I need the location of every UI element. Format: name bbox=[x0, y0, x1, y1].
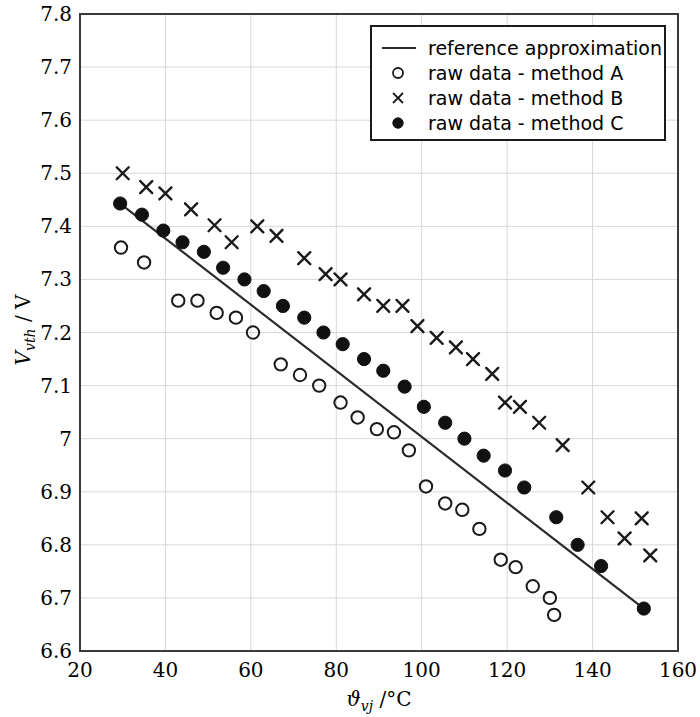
x-axis-title: ϑvj /°C bbox=[347, 687, 412, 714]
scatter-plot: 6.66.76.86.977.17.27.37.47.57.67.77.8 20… bbox=[0, 0, 700, 717]
data-point-open-circle bbox=[371, 423, 383, 435]
svg-text:Vvth / V: Vvth / V bbox=[11, 294, 38, 365]
chart-figure: 6.66.76.86.977.17.27.37.47.57.67.77.8 20… bbox=[0, 0, 700, 717]
data-point-open-circle bbox=[403, 444, 415, 456]
x-tick-label: 140 bbox=[573, 658, 611, 682]
data-point-filled-circle bbox=[417, 400, 430, 413]
data-point-filled-circle bbox=[498, 464, 511, 477]
y-tick-label: 7.6 bbox=[40, 108, 72, 132]
legend-label: raw data - method C bbox=[428, 112, 623, 134]
y-tick-label: 7.4 bbox=[40, 214, 72, 238]
data-point-filled-circle bbox=[377, 364, 390, 377]
x-tick-label: 20 bbox=[67, 658, 92, 682]
data-point-filled-circle bbox=[439, 416, 452, 429]
x-tick-label: 120 bbox=[488, 658, 526, 682]
data-point-filled-circle bbox=[550, 511, 563, 524]
y-tick-label: 6.9 bbox=[40, 480, 72, 504]
data-point-filled-circle bbox=[518, 481, 531, 494]
data-point-open-circle bbox=[456, 504, 468, 516]
data-point-filled-circle bbox=[398, 380, 411, 393]
y-tick-label: 7.2 bbox=[40, 321, 72, 345]
y-tick-label: 7.3 bbox=[40, 267, 72, 291]
series-reference-approximation bbox=[120, 204, 644, 609]
data-point-filled-circle bbox=[458, 432, 471, 445]
data-point-filled-circle bbox=[595, 559, 608, 572]
data-point-open-circle bbox=[527, 580, 539, 592]
legend: reference approximationraw data - method… bbox=[371, 26, 665, 140]
y-tick-label: 7.8 bbox=[40, 2, 72, 26]
y-tick-label: 6.7 bbox=[40, 586, 72, 610]
data-point-open-circle bbox=[351, 411, 363, 423]
x-tick-label: 40 bbox=[153, 658, 178, 682]
data-point-filled-circle bbox=[317, 326, 330, 339]
legend-label: reference approximation bbox=[428, 37, 662, 59]
x-tick-label: 60 bbox=[238, 658, 263, 682]
x-axis-tick-labels: 20406080100120140160 bbox=[67, 658, 697, 682]
data-point-open-circle bbox=[275, 358, 287, 370]
y-tick-label: 7.7 bbox=[40, 55, 72, 79]
legend-label: raw data - method B bbox=[428, 87, 623, 109]
data-point-open-circle bbox=[115, 241, 127, 253]
data-point-filled-circle bbox=[298, 311, 311, 324]
data-point-filled-circle bbox=[257, 284, 270, 297]
y-tick-label: 6.8 bbox=[40, 533, 72, 557]
data-point-open-circle bbox=[388, 426, 400, 438]
data-point-filled-circle bbox=[336, 338, 349, 351]
data-point-open-circle bbox=[210, 307, 222, 319]
data-point-open-circle bbox=[509, 561, 521, 573]
series-raw-data-method-a bbox=[115, 241, 561, 621]
y-tick-label: 7 bbox=[59, 427, 72, 451]
data-point-filled-circle bbox=[571, 538, 584, 551]
y-tick-label: 7.1 bbox=[40, 374, 72, 398]
data-point-open-circle bbox=[191, 294, 203, 306]
data-point-filled-circle bbox=[238, 273, 251, 286]
reference-line bbox=[120, 204, 644, 609]
y-tick-label: 7.5 bbox=[40, 161, 72, 185]
data-point-filled-circle bbox=[176, 236, 189, 249]
data-point-filled-circle bbox=[157, 224, 170, 237]
x-tick-label: 80 bbox=[324, 658, 349, 682]
data-point-open-circle bbox=[230, 311, 242, 323]
data-point-filled-circle bbox=[216, 261, 229, 274]
data-point-filled-circle bbox=[477, 449, 490, 462]
legend-marker-filled-circle bbox=[393, 118, 403, 128]
x-tick-label: 100 bbox=[403, 658, 441, 682]
data-point-open-circle bbox=[548, 609, 560, 621]
y-axis-tick-labels: 6.66.76.86.977.17.27.37.47.57.67.77.8 bbox=[40, 2, 72, 663]
data-point-open-circle bbox=[294, 369, 306, 381]
data-point-open-circle bbox=[138, 256, 150, 268]
data-point-filled-circle bbox=[197, 245, 210, 258]
data-point-open-circle bbox=[172, 294, 184, 306]
data-point-open-circle bbox=[439, 497, 451, 509]
data-point-filled-circle bbox=[114, 197, 127, 210]
data-point-filled-circle bbox=[135, 208, 148, 221]
y-axis-title: Vvth / V bbox=[11, 294, 38, 365]
data-point-filled-circle bbox=[276, 299, 289, 312]
legend-label: raw data - method A bbox=[428, 62, 623, 84]
data-point-filled-circle bbox=[357, 352, 370, 365]
data-point-open-circle bbox=[495, 553, 507, 565]
data-point-filled-circle bbox=[637, 602, 650, 615]
x-tick-label: 160 bbox=[659, 658, 697, 682]
data-point-open-circle bbox=[473, 523, 485, 535]
